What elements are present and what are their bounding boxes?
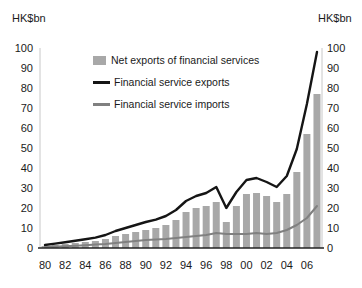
- left-axis-tick-80: 80: [0, 82, 33, 94]
- left-axis-tick-20: 20: [0, 202, 33, 214]
- x-axis-tick-00: 00: [235, 259, 257, 271]
- legend-row-exports: Financial service exports: [93, 71, 259, 93]
- right-axis-tick-20: 20: [327, 202, 359, 214]
- x-axis-tick-84: 84: [74, 259, 96, 271]
- left-axis-tick-0: 0: [0, 242, 33, 254]
- legend-label-net-exports: Net exports of financial services: [111, 54, 259, 66]
- right-axis-tick-80: 80: [327, 82, 359, 94]
- left-axis-tick-100: 100: [0, 42, 33, 54]
- left-axis-tick-50: 50: [0, 142, 33, 154]
- left-axis-tick-40: 40: [0, 162, 33, 174]
- right-axis-tick-30: 30: [327, 182, 359, 194]
- right-axis-tick-0: 0: [327, 242, 359, 254]
- left-axis-tick-60: 60: [0, 122, 33, 134]
- x-axis-tick-80: 80: [34, 259, 56, 271]
- x-axis-tick-94: 94: [175, 259, 197, 271]
- x-axis-tick-82: 82: [54, 259, 76, 271]
- net-exports-bar: [193, 208, 200, 248]
- legend: Net exports of financial services Financ…: [93, 49, 259, 115]
- x-axis-tick-98: 98: [215, 259, 237, 271]
- right-axis-tick-100: 100: [327, 42, 359, 54]
- x-axis-tick-90: 90: [135, 259, 157, 271]
- net-exports-bar: [253, 193, 260, 248]
- net-exports-bar: [183, 212, 190, 248]
- x-axis-tick-96: 96: [195, 259, 217, 271]
- chart-canvas: [0, 0, 362, 288]
- x-axis-tick-88: 88: [115, 259, 137, 271]
- left-axis-tick-90: 90: [0, 62, 33, 74]
- net-exports-bar: [172, 220, 179, 248]
- net-exports-bar: [263, 196, 270, 248]
- legend-row-imports: Financial service imports: [93, 93, 259, 115]
- x-axis-tick-06: 06: [296, 259, 318, 271]
- net-exports-bar: [283, 194, 290, 248]
- x-axis-tick-86: 86: [94, 259, 116, 271]
- net-exports-bar: [243, 194, 250, 248]
- x-axis-tick-02: 02: [256, 259, 278, 271]
- net-exports-bar-swatch-icon: [93, 56, 106, 65]
- legend-row-net-exports: Net exports of financial services: [93, 49, 259, 71]
- net-exports-bar: [303, 134, 310, 248]
- net-exports-bar: [213, 202, 220, 248]
- right-axis-tick-60: 60: [327, 122, 359, 134]
- left-axis-tick-10: 10: [0, 222, 33, 234]
- right-axis-tick-70: 70: [327, 102, 359, 114]
- left-axis-tick-30: 30: [0, 182, 33, 194]
- net-exports-bar: [313, 94, 320, 248]
- imports-line-swatch-icon: [93, 103, 110, 106]
- right-axis-tick-50: 50: [327, 142, 359, 154]
- net-exports-bar: [273, 202, 280, 248]
- net-exports-bar: [203, 206, 210, 248]
- x-axis-tick-04: 04: [276, 259, 298, 271]
- left-axis-tick-70: 70: [0, 102, 33, 114]
- net-exports-bar: [293, 172, 300, 248]
- net-exports-bar: [233, 206, 240, 248]
- net-exports-bar: [162, 225, 169, 248]
- chart-container: HK$bn HK$bn 0102030405060708090100 01020…: [0, 0, 362, 288]
- right-axis-tick-40: 40: [327, 162, 359, 174]
- right-axis-tick-90: 90: [327, 62, 359, 74]
- x-axis-tick-92: 92: [155, 259, 177, 271]
- net-exports-bar: [152, 228, 159, 248]
- exports-line-swatch-icon: [93, 81, 110, 84]
- right-axis-tick-10: 10: [327, 222, 359, 234]
- legend-label-imports: Financial service imports: [114, 98, 230, 110]
- legend-label-exports: Financial service exports: [114, 76, 230, 88]
